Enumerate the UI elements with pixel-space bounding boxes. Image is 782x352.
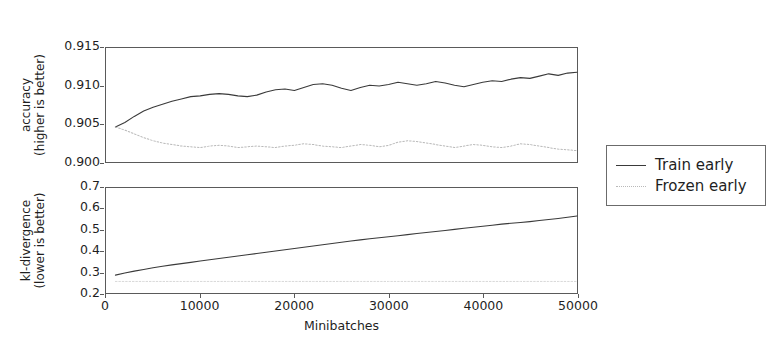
accuracy-ytick-label: 0.900 [64, 156, 100, 169]
accuracy-y-axis-title-line2: (higher is better) [34, 47, 48, 163]
kl-y-axis-title-line2: (lower is better) [34, 187, 48, 294]
legend-entry-train-early[interactable]: Train early [616, 154, 756, 175]
figure-canvas: 0.9000.9050.9100.915 accuracy (higher is… [0, 0, 782, 352]
accuracy-ytick-mark [100, 163, 104, 164]
kl-ytick-mark [100, 294, 104, 295]
legend-box: Train early Frozen early [606, 145, 766, 206]
kl-ytick-mark [100, 208, 104, 209]
kl-y-axis-title-line1: kl-divergence [20, 187, 34, 294]
kl-ytick-mark [100, 273, 104, 274]
accuracy-y-axis-title: accuracy (higher is better) [20, 47, 48, 163]
accuracy-ytick-column: 0.9000.9050.9100.915 [44, 47, 100, 163]
x-axis-tick-label: 0 [101, 300, 109, 313]
x-axis-tick-label: 40000 [464, 300, 504, 313]
x-axis-tick-label: 30000 [369, 300, 409, 313]
accuracy-ytick-label: 0.910 [64, 79, 100, 92]
accuracy-ytick-label: 0.905 [64, 117, 100, 130]
legend-label-frozen-early: Frozen early [655, 177, 747, 195]
kl-ytick-mark [100, 187, 104, 188]
legend-entry-frozen-early[interactable]: Frozen early [616, 175, 756, 196]
kl-y-axis-title: kl-divergence (lower is better) [20, 187, 48, 294]
kl-plot-area [105, 187, 578, 294]
kl-ytick-label: 0.3 [80, 266, 100, 279]
kl-ytick-label: 0.4 [80, 244, 100, 257]
train-early-line-sample [616, 160, 646, 170]
accuracy-ytick-mark [100, 86, 104, 87]
kl-ytick-label: 0.6 [80, 201, 100, 214]
series-line-train-early [115, 216, 577, 275]
x-axis-tick-label: 10000 [180, 300, 220, 313]
accuracy-plot-area [105, 47, 578, 163]
kl-series-svg [106, 188, 577, 293]
kl-ytick-mark [100, 230, 104, 231]
accuracy-y-axis-title-line1: accuracy [20, 47, 34, 163]
x-axis-tick-label: 50000 [558, 300, 598, 313]
x-axis-tick-label: 20000 [274, 300, 314, 313]
accuracy-ytick-mark [100, 124, 104, 125]
accuracy-series-svg [106, 48, 577, 162]
kl-ytick-label: 0.2 [80, 287, 100, 300]
accuracy-ytick-mark [100, 47, 104, 48]
kl-ytick-column: 0.20.30.40.50.60.7 [44, 187, 100, 294]
kl-ytick-mark [100, 251, 104, 252]
x-axis-title: Minibatches [105, 318, 578, 333]
series-line-frozen-early [115, 127, 577, 151]
kl-ytick-label: 0.5 [80, 223, 100, 236]
series-line-train-early [115, 72, 577, 127]
x-axis-ticks: 01000020000300004000050000 [105, 294, 578, 318]
legend-label-train-early: Train early [655, 156, 733, 174]
frozen-early-line-sample [616, 181, 646, 191]
accuracy-ytick-label: 0.915 [64, 40, 100, 53]
kl-ytick-label: 0.7 [80, 180, 100, 193]
